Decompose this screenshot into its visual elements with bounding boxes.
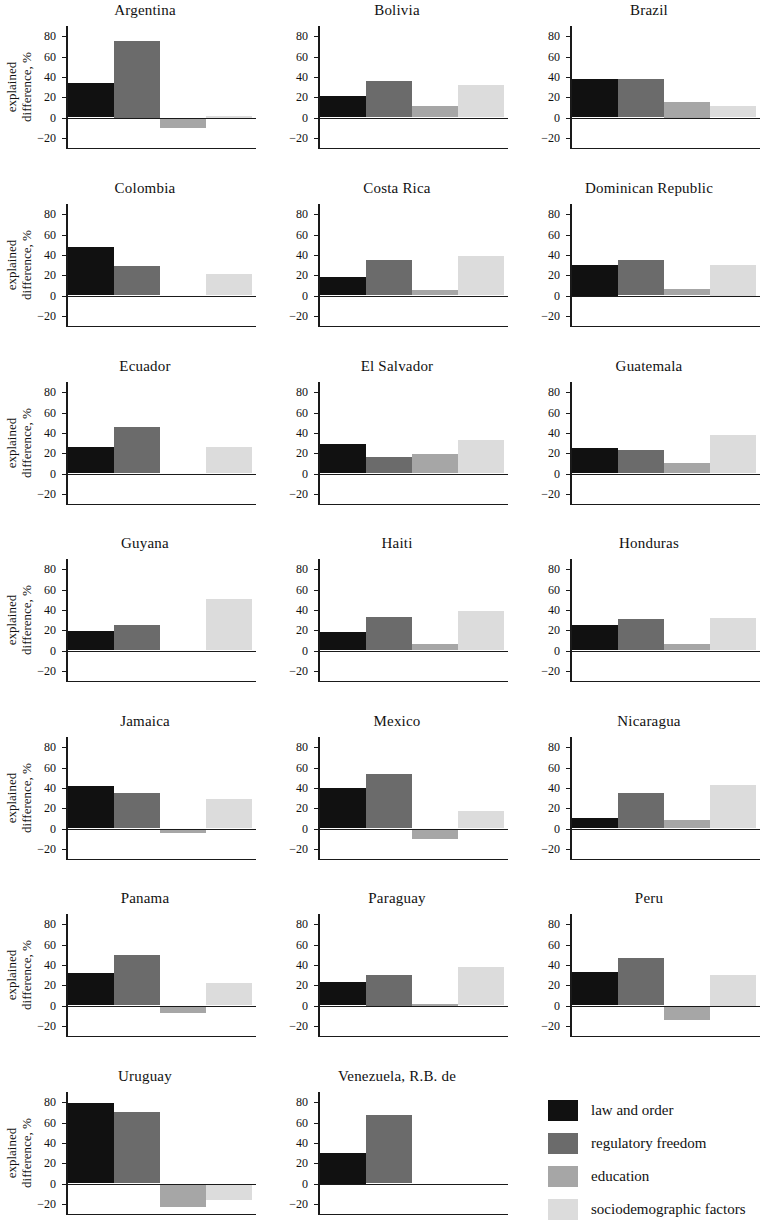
y-axis-tick: 80	[566, 214, 571, 215]
bar-education	[160, 1184, 206, 1207]
panel-colombia: Colombiaexplaineddifference, %806040200−…	[0, 178, 256, 354]
y-axis-tick-label: 80	[296, 741, 308, 753]
bar-group	[68, 559, 254, 681]
bar-regulatory-freedom	[114, 41, 160, 117]
y-axis-label: explaineddifference, %	[2, 384, 36, 504]
zero-line	[318, 829, 508, 831]
legend-item: regulatory freedom	[548, 1127, 768, 1160]
y-axis-tick: 80	[314, 392, 319, 393]
bar-regulatory-freedom	[618, 793, 664, 829]
bar-sociodemographic-factors	[458, 611, 504, 651]
zero-line	[318, 118, 508, 120]
bar-education	[412, 829, 458, 839]
bar-regulatory-freedom	[366, 617, 412, 651]
y-axis-tick: 40	[62, 788, 67, 789]
bar-group	[68, 382, 254, 504]
axis-baseline	[66, 1214, 256, 1215]
bar-group	[572, 204, 758, 326]
bar-law-and-order	[320, 1153, 366, 1184]
panel-title: Ecuador	[0, 358, 256, 375]
bar-group	[320, 559, 506, 681]
y-axis-tick-label: −20	[289, 843, 308, 855]
y-axis-tick-label: 60	[296, 762, 308, 774]
y-axis-tick: 20	[62, 453, 67, 454]
panel-ecuador: Ecuadorexplaineddifference, %806040200−2…	[0, 356, 256, 532]
y-axis-tick-label: −20	[289, 665, 308, 677]
bar-law-and-order	[320, 632, 366, 650]
y-axis-tick: 80	[62, 1102, 67, 1103]
y-axis-tick-label: 20	[296, 979, 308, 991]
plot-area: 806040200−20	[318, 559, 504, 681]
y-axis-tick: 60	[314, 768, 319, 769]
y-axis-tick-label: 60	[296, 229, 308, 241]
y-axis-tick-label: 80	[296, 30, 308, 42]
y-axis-label: explaineddifference, %	[2, 561, 36, 681]
y-axis-tick: 60	[566, 413, 571, 414]
y-axis-tick: 40	[62, 610, 67, 611]
y-axis-tick: −20	[314, 494, 319, 495]
bar-sociodemographic-factors	[710, 435, 756, 474]
y-axis-tick-label: 80	[44, 208, 56, 220]
bar-regulatory-freedom	[366, 260, 412, 296]
zero-line	[66, 1006, 256, 1008]
y-axis-tick-label: 20	[296, 802, 308, 814]
axis-baseline	[318, 859, 508, 860]
y-axis-label-line1: explained	[4, 27, 19, 147]
legend-item: education	[548, 1160, 768, 1193]
zero-line	[570, 296, 760, 298]
zero-line	[318, 296, 508, 298]
y-axis-tick: 80	[566, 747, 571, 748]
y-axis-tick-label: 80	[296, 918, 308, 930]
y-axis-tick-label: 0	[302, 645, 308, 657]
y-axis-tick-label: 0	[50, 112, 56, 124]
bar-regulatory-freedom	[114, 955, 160, 1006]
legend-swatch-law-and-order	[548, 1100, 578, 1121]
bar-law-and-order	[68, 973, 114, 1006]
y-axis-tick: 80	[314, 569, 319, 570]
y-axis-tick: 40	[314, 1143, 319, 1144]
y-axis-tick: 20	[566, 985, 571, 986]
panel-venezuela-r-b-de: Venezuela, R.B. de806040200−20	[252, 1066, 508, 1231]
y-axis-tick-label: 80	[548, 741, 560, 753]
y-axis-tick-label: 80	[296, 386, 308, 398]
axis-baseline	[570, 859, 760, 860]
y-axis-tick-label: 0	[50, 645, 56, 657]
zero-line	[570, 829, 760, 831]
y-axis-tick-label: −20	[37, 665, 56, 677]
y-axis-tick: −20	[566, 671, 571, 672]
y-axis-tick: 40	[314, 255, 319, 256]
bar-group	[572, 382, 758, 504]
y-axis-tick-label: 0	[50, 290, 56, 302]
bar-law-and-order	[572, 625, 618, 650]
y-axis-tick: −20	[566, 849, 571, 850]
bar-regulatory-freedom	[114, 427, 160, 474]
axis-baseline	[570, 504, 760, 505]
panel-title: Guatemala	[504, 358, 760, 375]
y-axis-tick-label: 60	[296, 51, 308, 63]
panel-title: Argentina	[0, 2, 256, 19]
panel-title: Costa Rica	[252, 180, 508, 197]
legend-item: sociodemographic factors	[548, 1193, 768, 1226]
legend-item: law and order	[548, 1094, 768, 1127]
y-axis-tick-label: 40	[548, 959, 560, 971]
y-axis-tick: 20	[566, 275, 571, 276]
bar-regulatory-freedom	[114, 793, 160, 829]
y-axis-tick-label: −20	[289, 1198, 308, 1210]
bar-law-and-order	[68, 631, 114, 650]
y-axis-tick: 60	[566, 945, 571, 946]
y-axis-tick: 40	[314, 610, 319, 611]
bar-education	[664, 1006, 710, 1020]
y-axis-tick: 60	[62, 1123, 67, 1124]
y-axis-tick-label: 60	[296, 939, 308, 951]
panel-title: Jamaica	[0, 713, 256, 730]
y-axis-tick-label: 40	[296, 249, 308, 261]
panel-title: Guyana	[0, 535, 256, 552]
panel-honduras: Honduras806040200−20	[504, 533, 760, 709]
y-axis-tick: 80	[62, 214, 67, 215]
bar-law-and-order	[320, 277, 366, 295]
bar-regulatory-freedom	[366, 1115, 412, 1183]
y-axis-tick: −20	[314, 316, 319, 317]
y-axis-tick-label: 60	[296, 1117, 308, 1129]
y-axis-tick: 60	[62, 590, 67, 591]
y-axis-tick-label: 20	[44, 802, 56, 814]
